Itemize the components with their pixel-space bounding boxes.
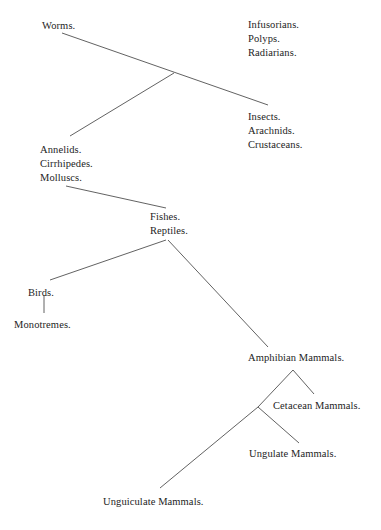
node-label-amphibian-mammals: Amphibian Mammals. [248, 351, 344, 365]
node-line-fishes-reptiles-0: Fishes. [150, 210, 188, 224]
edge-annelids-to-junction [70, 73, 174, 136]
node-line-infusorians-group-2: Radiarians. [248, 46, 299, 60]
node-label-ungulate-mammals: Ungulate Mammals. [249, 447, 336, 461]
node-line-birds-0: Birds. [28, 286, 54, 300]
edge-amphibian-to-cetacean [293, 370, 314, 394]
node-line-monotremes-0: Monotremes. [14, 318, 71, 332]
node-label-annelids-group: Annelids.Cirrhipedes.Molluscs. [40, 143, 93, 186]
node-label-infusorians-group: Infusorians.Polyps.Radiarians. [248, 18, 299, 61]
node-line-insects-group-0: Insects. [248, 110, 303, 124]
node-line-fishes-reptiles-1: Reptiles. [150, 224, 188, 238]
node-line-insects-group-2: Crustaceans. [248, 138, 303, 152]
edge-reptiles-to-birds [50, 240, 166, 280]
node-line-annelids-group-0: Annelids. [40, 143, 93, 157]
node-line-annelids-group-1: Cirrhipedes. [40, 157, 93, 171]
node-line-unguiculate-mammals-0: Unguiculate Mammals. [103, 495, 204, 509]
edge-reptiles-to-amphibian-mammals [168, 240, 268, 347]
edge-molluscs-to-fishes [66, 186, 166, 208]
node-line-cetacean-mammals-0: Cetacean Mammals. [273, 399, 360, 413]
node-line-infusorians-group-1: Polyps. [248, 32, 299, 46]
node-label-fishes-reptiles: Fishes.Reptiles. [150, 210, 188, 238]
genealogical-tree-diagram: Worms.Infusorians.Polyps.Radiarians.Inse… [0, 0, 381, 530]
edge-worms-to-insects [62, 33, 268, 105]
node-line-worms-0: Worms. [42, 19, 75, 33]
node-line-amphibian-mammals-0: Amphibian Mammals. [248, 351, 344, 365]
edge-junction-to-unguiculate [160, 407, 258, 488]
node-label-unguiculate-mammals: Unguiculate Mammals. [103, 495, 204, 509]
node-label-insects-group: Insects.Arachnids.Crustaceans. [248, 110, 303, 153]
node-label-worms: Worms. [42, 19, 75, 33]
node-line-insects-group-1: Arachnids. [248, 124, 303, 138]
node-label-birds: Birds. [28, 286, 54, 300]
node-line-infusorians-group-0: Infusorians. [248, 18, 299, 32]
node-line-annelids-group-2: Molluscs. [40, 171, 93, 185]
node-label-cetacean-mammals: Cetacean Mammals. [273, 399, 360, 413]
node-label-monotremes: Monotremes. [14, 318, 71, 332]
node-line-ungulate-mammals-0: Ungulate Mammals. [249, 447, 336, 461]
